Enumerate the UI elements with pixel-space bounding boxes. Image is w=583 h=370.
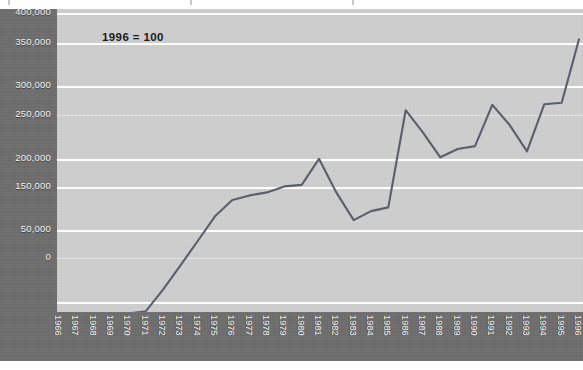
scan-margin-bottom (0, 361, 583, 370)
y-axis-tick-label: 300,000 (15, 79, 51, 90)
x-axis-tick-label: 1970 (122, 315, 132, 336)
x-axis-tick-label: 1985 (382, 315, 392, 336)
x-axis-tick-label: 1986 (400, 315, 410, 336)
x-axis-tick-label: 1969 (105, 315, 115, 336)
y-axis-tick-label: 200,000 (15, 152, 51, 163)
data-series-line (57, 9, 583, 312)
x-axis-tick-label: 1975 (209, 315, 219, 336)
x-axis-tick-label: 1981 (313, 315, 323, 336)
y-axis: 400,000350,000300,000250,000200,000150,0… (0, 9, 57, 361)
x-axis-tick-label: 1993 (521, 315, 531, 336)
x-axis-tick-label: 1995 (556, 315, 566, 336)
x-axis-tick-label: 1991 (486, 315, 496, 336)
y-axis-tick-label: 400,000 (15, 6, 51, 17)
y-axis-tick-label: 350,000 (15, 36, 51, 47)
x-axis-tick-label: 1989 (452, 315, 462, 336)
x-axis-tick-label: 1973 (174, 315, 184, 336)
x-axis-tick-label: 1996 (573, 315, 583, 336)
chart-annotation: 1996 = 100 (102, 31, 164, 43)
y-axis-tick-label: 150,000 (15, 180, 51, 191)
x-axis-tick-label: 1967 (70, 315, 80, 336)
x-axis-tick-label: 1984 (365, 315, 375, 336)
x-axis-tick-label: 1968 (88, 315, 98, 336)
x-axis-tick-label: 1978 (261, 315, 271, 336)
x-axis-tick-label: 1972 (157, 315, 167, 336)
x-axis-tick-label: 1977 (244, 315, 254, 336)
x-axis-tick-label: 1990 (469, 315, 479, 336)
plot-area: 1996 = 100 (57, 9, 583, 312)
x-axis-tick-label: 1992 (504, 315, 514, 336)
x-axis-tick-label: 1966 (53, 315, 63, 336)
scan-artifact (8, 0, 10, 5)
scan-margin-top (0, 0, 583, 9)
x-axis-tick-label: 1979 (278, 315, 288, 336)
x-axis-tick-label: 1987 (417, 315, 427, 336)
scan-artifact (190, 0, 192, 5)
x-axis: 1966196719681969197019711972197319741975… (0, 312, 583, 361)
scan-artifact (352, 0, 354, 5)
x-axis-tick-label: 1983 (348, 315, 358, 336)
y-axis-tick-label: 250,000 (15, 108, 51, 119)
x-axis-tick-label: 1982 (330, 315, 340, 336)
chart-container: 400,000350,000300,000250,000200,000150,0… (0, 0, 583, 370)
series-polyline (59, 39, 579, 312)
x-axis-tick-label: 1980 (296, 315, 306, 336)
y-axis-tick-label: 0 (46, 251, 51, 262)
x-axis-tick-label: 1974 (192, 315, 202, 336)
x-axis-tick-label: 1976 (226, 315, 236, 336)
y-axis-tick-label: 50,000 (21, 223, 51, 234)
x-axis-tick-label: 1971 (140, 315, 150, 336)
x-axis-tick-label: 1988 (434, 315, 444, 336)
x-axis-tick-label: 1994 (538, 315, 548, 336)
